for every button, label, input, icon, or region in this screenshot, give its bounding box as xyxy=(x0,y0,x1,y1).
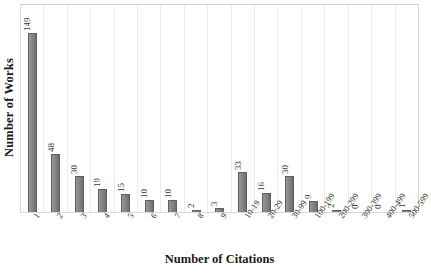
bar-value-label: 30 xyxy=(281,165,290,174)
x-tick-label: 5 xyxy=(126,212,135,220)
y-axis-title-label: Number of Works xyxy=(3,57,18,156)
x-tick: 8 xyxy=(184,213,207,251)
x-tick-label: 3 xyxy=(79,212,88,220)
x-tick-label: 9 xyxy=(219,212,228,220)
y-axis-title: Number of Works xyxy=(0,0,20,214)
bar-value-label: 149 xyxy=(23,18,32,32)
x-tick-label: 6 xyxy=(149,212,158,220)
x-tick: 1 xyxy=(20,213,43,251)
x-tick: 200-299 xyxy=(325,213,348,251)
bar-column: 2 xyxy=(185,5,208,212)
x-tick-label: 8 xyxy=(196,212,205,220)
bar-column: 0 xyxy=(349,5,372,212)
bar-column: 48 xyxy=(44,5,67,212)
bar-column: 3 xyxy=(208,5,231,212)
bar-series: 1494830191510102333163092001 xyxy=(21,5,418,212)
x-tick-label: 7 xyxy=(173,212,182,220)
x-tick: 30-99 xyxy=(278,213,301,251)
bar-column: 2 xyxy=(325,5,348,212)
x-tick: 3 xyxy=(67,213,90,251)
bar-value-label: 33 xyxy=(234,161,243,170)
x-tick: 7 xyxy=(161,213,184,251)
bar-value-label: 15 xyxy=(117,183,126,192)
bar-column: 19 xyxy=(91,5,114,212)
bar-column: 1 xyxy=(396,5,418,212)
bar-column: 10 xyxy=(161,5,184,212)
x-tick: 4 xyxy=(90,213,113,251)
x-tick: 20-29 xyxy=(255,213,278,251)
x-axis-title: Number of Citations xyxy=(20,252,419,267)
bar-value-label: 3 xyxy=(210,202,219,207)
bar: 15 xyxy=(121,194,130,212)
bar-column: 149 xyxy=(21,5,44,212)
bar: 30 xyxy=(75,176,84,212)
x-tick: 10-19 xyxy=(231,213,254,251)
x-tick-label: 2 xyxy=(55,212,64,220)
bar-column: 0 xyxy=(372,5,395,212)
x-tick: 100-199 xyxy=(302,213,325,251)
plot-area: 1494830191510102333163092001 xyxy=(20,4,419,213)
x-tick-label: 1 xyxy=(32,212,41,220)
x-tick-label: 4 xyxy=(102,212,111,220)
x-tick: 2 xyxy=(43,213,66,251)
x-tick: 500-599 xyxy=(396,213,419,251)
bar: 48 xyxy=(51,154,60,212)
x-tick: 5 xyxy=(114,213,137,251)
bar: 10 xyxy=(168,200,177,212)
x-tick: 400-499 xyxy=(372,213,395,251)
bar: 10 xyxy=(145,200,154,212)
bar-column: 33 xyxy=(232,5,255,212)
bar-column: 30 xyxy=(278,5,301,212)
bar: 149 xyxy=(28,33,37,212)
bar-value-label: 30 xyxy=(70,165,79,174)
bar-column: 16 xyxy=(255,5,278,212)
bar-column: 15 xyxy=(115,5,138,212)
bar: 30 xyxy=(285,176,294,212)
bar-value-label: 10 xyxy=(140,189,149,198)
bar-value-label: 19 xyxy=(93,178,102,187)
bar: 33 xyxy=(238,172,247,212)
x-tick: 9 xyxy=(208,213,231,251)
bar-column: 10 xyxy=(138,5,161,212)
bar: 19 xyxy=(98,189,107,212)
x-tick: 300-399 xyxy=(349,213,372,251)
bar-value-label: 48 xyxy=(47,143,56,152)
bar-value-label: 16 xyxy=(257,182,266,191)
bar-column: 9 xyxy=(302,5,325,212)
bar-value-label: 2 xyxy=(187,203,196,208)
x-tick: 6 xyxy=(137,213,160,251)
bar-value-label: 9 xyxy=(304,195,313,200)
bar-column: 30 xyxy=(68,5,91,212)
x-axis-tick-labels: 12345678910-1920-2930-99100-199200-29930… xyxy=(20,213,419,251)
bar-value-label: 10 xyxy=(164,189,173,198)
